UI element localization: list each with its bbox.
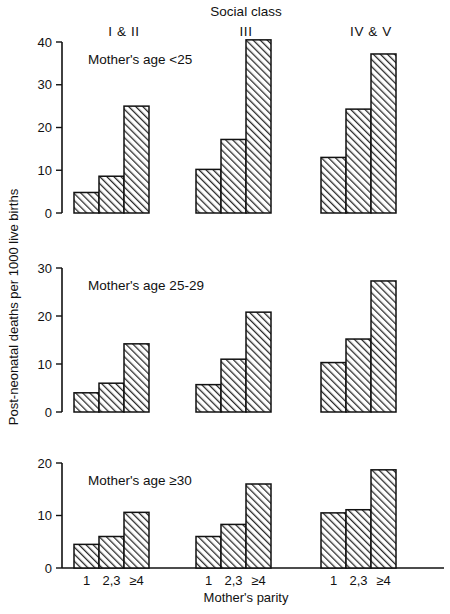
bar xyxy=(74,192,99,213)
x-category-label: 2,3 xyxy=(224,573,242,588)
y-tick-label: 0 xyxy=(45,405,52,420)
y-tick-label: 10 xyxy=(38,357,52,372)
y-tick-label: 10 xyxy=(38,508,52,523)
x-category-label: 2,3 xyxy=(349,573,367,588)
bar xyxy=(321,513,346,568)
x-category-label: 2,3 xyxy=(102,573,120,588)
bar xyxy=(346,109,371,213)
column-header-social-class-1-2: I & II xyxy=(108,24,139,39)
bar xyxy=(371,281,396,412)
panels-layer: 010203040Mother's age <250102030Mother's… xyxy=(38,35,444,589)
panel-1: 010203040Mother's age <25 xyxy=(38,35,396,221)
y-tick-label: 30 xyxy=(38,261,52,276)
panel-note: Mother's age ≥30 xyxy=(88,473,192,488)
column-header-social-class-4-5: IV & V xyxy=(350,24,392,39)
bar xyxy=(246,40,271,213)
x-category-label: ≥4 xyxy=(129,573,143,588)
y-tick-label: 20 xyxy=(38,456,52,471)
bar xyxy=(221,524,246,568)
bar xyxy=(124,512,149,568)
bar xyxy=(74,393,99,412)
x-axis-title: Mother's parity xyxy=(204,590,289,605)
y-tick-label: 30 xyxy=(38,77,52,92)
bar xyxy=(221,139,246,213)
bar xyxy=(371,470,396,568)
y-axis-title: Post-neonatal deaths per 1000 live birth… xyxy=(6,188,21,425)
bar xyxy=(99,537,124,569)
bar xyxy=(221,359,246,412)
column-header-social-class-3: III xyxy=(239,24,252,39)
multi-panel-bar-chart: Social class I & II III IV & V Post-neon… xyxy=(0,0,450,614)
y-tick-label: 40 xyxy=(38,35,52,50)
bar xyxy=(246,312,271,412)
bar xyxy=(99,383,124,412)
x-category-label: 1 xyxy=(205,573,212,588)
y-tick-label: 20 xyxy=(38,120,52,135)
y-tick-label: 0 xyxy=(45,561,52,576)
y-tick-label: 0 xyxy=(45,206,52,221)
bar xyxy=(74,544,99,568)
bar xyxy=(321,157,346,213)
x-category-label: ≥4 xyxy=(376,573,390,588)
bar xyxy=(246,484,271,568)
bar xyxy=(124,106,149,213)
bar xyxy=(99,176,124,213)
panel-note: Mother's age <25 xyxy=(88,52,192,67)
x-category-label: ≥4 xyxy=(251,573,265,588)
panel-2: 0102030Mother's age 25-29 xyxy=(38,261,396,420)
figure-container: Social class I & II III IV & V Post-neon… xyxy=(0,0,450,614)
super-title: Social class xyxy=(210,4,282,19)
bar xyxy=(321,363,346,412)
bar xyxy=(346,510,371,568)
bar xyxy=(196,169,221,213)
bar xyxy=(196,385,221,412)
x-category-label: 1 xyxy=(83,573,90,588)
bar xyxy=(196,537,221,569)
panel-3: 01020Mother's age ≥30 xyxy=(38,456,444,576)
bar xyxy=(371,54,396,213)
y-tick-label: 20 xyxy=(38,309,52,324)
bar xyxy=(124,344,149,412)
y-tick-label: 10 xyxy=(38,163,52,178)
x-category-label: 1 xyxy=(330,573,337,588)
bar xyxy=(346,339,371,412)
panel-note: Mother's age 25-29 xyxy=(88,278,204,293)
